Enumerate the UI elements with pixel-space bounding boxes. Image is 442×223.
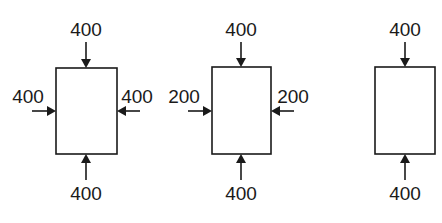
element-3-top-load-label: 400 (389, 19, 421, 40)
element-2-left-arrow-icon (188, 106, 212, 116)
element-3-box (375, 67, 435, 154)
element-1-top-load-label: 400 (70, 19, 102, 40)
element-2-box (212, 67, 271, 154)
element-2-bottom-load-label: 400 (225, 183, 257, 204)
stress-diagram: 400 400 400 400 400 (0, 0, 442, 223)
element-2: 400 400 200 200 (168, 19, 309, 204)
element-1-top-arrow-icon (81, 42, 91, 68)
element-2-top-load-label: 400 (225, 19, 257, 40)
element-2-left-load-label: 200 (168, 86, 200, 107)
element-1-left-arrow-icon (32, 106, 56, 116)
element-2-right-load-label: 200 (277, 86, 309, 107)
element-1-right-arrow-icon (117, 106, 140, 116)
element-1-bottom-load-label: 400 (70, 183, 102, 204)
element-1-box (56, 68, 117, 154)
element-1: 400 400 400 400 (12, 19, 153, 204)
element-1-right-load-label: 400 (121, 86, 153, 107)
element-2-right-arrow-icon (271, 106, 294, 116)
element-3-bottom-load-label: 400 (389, 183, 421, 204)
element-3: 400 400 (375, 19, 435, 204)
element-1-left-load-label: 400 (12, 86, 44, 107)
element-2-bottom-arrow-icon (236, 154, 246, 180)
element-1-bottom-arrow-icon (81, 154, 91, 180)
element-3-top-arrow-icon (400, 42, 410, 67)
element-3-bottom-arrow-icon (400, 154, 410, 180)
element-2-top-arrow-icon (236, 42, 246, 67)
